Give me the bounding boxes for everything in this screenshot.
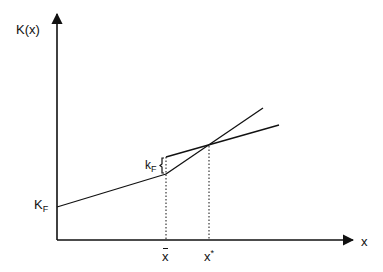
- x-star-label: x*: [204, 250, 214, 263]
- cost-function-diagram: K(x) x KF kF x x*: [0, 0, 383, 272]
- cost-line-lower: [57, 174, 166, 207]
- jump-brace: [160, 158, 164, 173]
- cost-line-steep: [166, 108, 263, 174]
- x-axis-label: x: [361, 235, 368, 248]
- x-bar-label: x: [162, 250, 169, 263]
- jump-cost-label: kF: [145, 159, 157, 171]
- fixed-cost-intercept-label: KF: [34, 198, 48, 211]
- y-axis-label: K(x): [16, 23, 40, 36]
- cost-line-upper: [166, 125, 279, 157]
